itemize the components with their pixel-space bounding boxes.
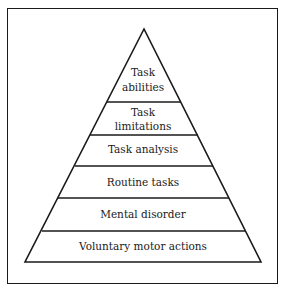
level-mental-disorder: Mental disorder [0,208,286,221]
level-routine-tasks: Routine tasks [0,176,286,189]
level-task-limitations-line2: limitations [0,120,286,133]
level-task-analysis: Task analysis [0,143,286,156]
level-task-limitations-line1: Task [0,106,286,119]
level-task-abilities-line2: abilities [0,81,286,94]
level-task-abilities-line1: Task [0,66,286,79]
level-voluntary-motor-actions: Voluntary motor actions [0,240,286,253]
